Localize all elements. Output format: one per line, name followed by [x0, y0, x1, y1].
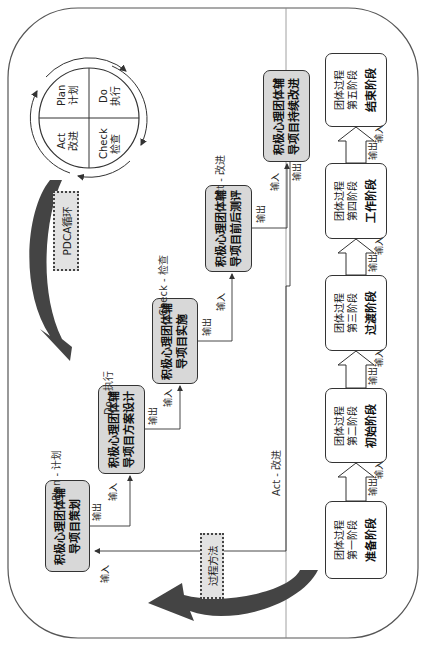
input-label: 输入 [163, 389, 174, 407]
pdca-box-improve: 积极心理团体辅导项目持续改进 [263, 70, 310, 162]
diagram-canvas: Plan计划 Do执行 Check检查 Act改进 PDCA循环 过程方法 积极… [0, 0, 427, 651]
act-step-label: Act - 改进 [212, 155, 227, 201]
input-label: 输入 [374, 125, 385, 143]
input-label: 输入 [108, 483, 119, 501]
stage-box-prepare: 团体过程第一阶段准备阶段 [325, 501, 387, 579]
input-label: 输入 [100, 565, 111, 583]
pdca-cycle-label: PDCA循环 [53, 191, 79, 271]
pdca-act-label: Act改进 [56, 131, 80, 151]
output-label: 输出 [92, 503, 103, 521]
check-step-label: Check - 检查 [155, 255, 170, 316]
input-label: 输入 [374, 349, 385, 367]
act-return-label: Act - 改进 [268, 450, 283, 496]
curved-arrow-icon [148, 570, 318, 621]
do-step-label: Do - 执行 [100, 371, 115, 415]
input-label: 输入 [270, 173, 281, 191]
pdca-do-label: Do执行 [98, 86, 122, 106]
plan-step-label: Plan - 计划 [48, 450, 63, 501]
process-method-label: 过程方法 [200, 533, 224, 599]
stage-box-working: 团体过程第四阶段工作阶段 [325, 163, 387, 239]
stage-box-ending: 团体过程第五阶段结束阶段 [325, 53, 387, 127]
output-label: 输出 [202, 318, 213, 336]
stage-box-initial: 团体过程第二阶段初始阶段 [325, 388, 387, 463]
output-label: 输出 [368, 254, 379, 272]
output-label: 输出 [256, 205, 267, 223]
input-label: 输入 [374, 461, 385, 479]
stage-box-transition: 团体过程第三阶段过渡阶段 [325, 275, 387, 351]
output-label: 输出 [368, 367, 379, 385]
input-label: 输入 [216, 293, 227, 311]
pdca-check-label: Check检查 [98, 128, 122, 159]
pdca-circle-icon [30, 58, 147, 177]
output-label: 输出 [148, 407, 159, 425]
output-label: 输出 [368, 478, 379, 496]
pdca-plan-label: Plan计划 [56, 85, 80, 106]
output-label: 输出 [368, 142, 379, 160]
input-label: 输入 [374, 237, 385, 255]
output-label: 输出 [292, 163, 303, 181]
